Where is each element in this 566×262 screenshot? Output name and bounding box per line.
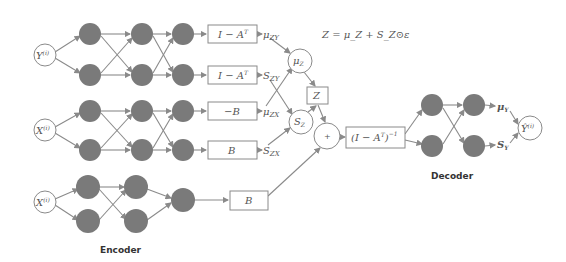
hidden-node (131, 23, 153, 45)
hidden-node (79, 23, 101, 45)
svg-text:μY: μY (497, 101, 509, 113)
hidden-node (421, 135, 443, 157)
encoder-hidden-nodes (76, 23, 195, 233)
diagram-canvas: Y(i) X(i) X(i) Ŷ(i) I − AT I − AT −B B B… (0, 0, 566, 262)
hidden-node (131, 139, 153, 161)
input-x-1: X(i) (34, 119, 56, 141)
svg-text:−B: −B (224, 106, 240, 117)
hidden-node (172, 23, 194, 45)
hidden-node (79, 100, 101, 122)
sum-node: + (314, 123, 340, 149)
hidden-node (79, 139, 101, 161)
latent-mu-z: μZ (288, 49, 312, 73)
vae-sem-diagram: Y(i) X(i) X(i) Ŷ(i) I − AT I − AT −B B B… (0, 0, 566, 262)
signal-labels: μZY SZY μZX SZX (263, 29, 281, 158)
svg-text:μZY: μZY (263, 29, 280, 42)
box-i-minus-at-1: I − AT (208, 25, 257, 43)
hidden-node (463, 135, 485, 157)
latent-s-z: SZ (289, 110, 313, 134)
decoder-label: Decoder (431, 171, 474, 181)
box-inverse: (I − AT)−1 (346, 127, 405, 148)
hidden-node (172, 139, 194, 161)
box-b-2: B (230, 191, 268, 210)
svg-text:SZY: SZY (263, 70, 281, 83)
hidden-node (131, 64, 153, 86)
box-minus-b: −B (208, 102, 257, 120)
box-z: Z (307, 87, 328, 104)
hidden-node (76, 209, 100, 233)
svg-text:+: + (324, 132, 331, 141)
box-i-minus-at-2: I − AT (208, 66, 257, 84)
input-x-2: X(i) (34, 191, 56, 213)
hidden-node (124, 209, 148, 233)
svg-text:SY: SY (497, 139, 509, 151)
hidden-node (172, 64, 194, 86)
svg-text:SZX: SZX (263, 145, 281, 158)
hidden-node (171, 188, 195, 212)
encoder-label: Encoder (100, 245, 142, 255)
hidden-node (76, 175, 100, 199)
hidden-node (172, 100, 194, 122)
reparam-equation: Z = μ_Z + S_Z⊙ε (321, 29, 409, 41)
output-y-hat: Ŷ(i) (518, 116, 542, 140)
svg-text:Z: Z (312, 90, 321, 101)
hidden-node (421, 94, 443, 116)
input-y: Y(i) (34, 44, 56, 66)
hidden-node (463, 94, 485, 116)
svg-text:μZX: μZX (263, 106, 280, 119)
hidden-node (131, 100, 153, 122)
hidden-node (124, 175, 148, 199)
decoder-output-labels: μY SY (497, 101, 509, 151)
svg-text:B: B (244, 195, 252, 206)
svg-text:B: B (227, 145, 235, 156)
hidden-node (79, 64, 101, 86)
box-b-1: B (208, 141, 257, 159)
